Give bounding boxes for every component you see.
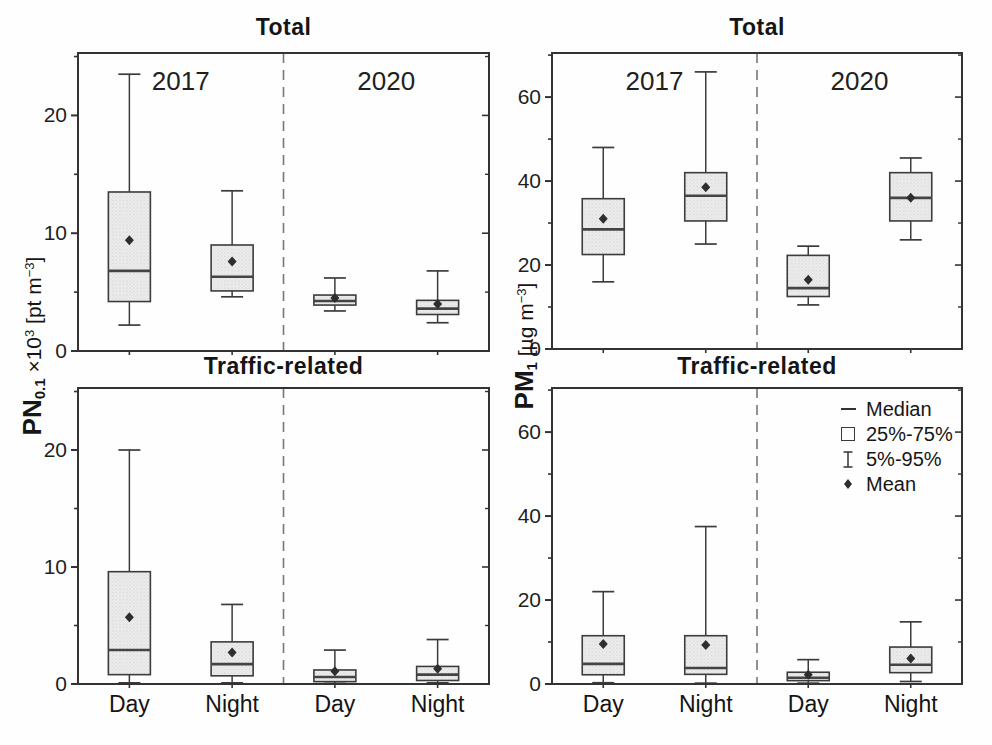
iqr-box (108, 572, 150, 675)
box-2020-night (890, 622, 932, 682)
x-category-label: Night (679, 691, 733, 717)
y-tick-label: 0 (55, 672, 67, 695)
legend-label: Mean (866, 473, 916, 496)
y-axis-unit: [pt m (22, 277, 45, 330)
legend-item-mean: Mean (838, 472, 953, 496)
box-2020-day (787, 660, 829, 684)
box-2017-day (582, 592, 624, 683)
iqr-box (211, 642, 253, 676)
boxplot-panel-top-right: 020406020172020 (518, 53, 962, 360)
y-tick-label: 10 (44, 555, 67, 578)
legend-item-iqr: 25%-75% (838, 422, 953, 446)
boxplot-panel-top-left: 0102020172020 (44, 53, 489, 362)
whisker-icon (838, 450, 858, 469)
iqr-box (108, 192, 150, 302)
x-category-label: Night (884, 691, 938, 717)
y-tick-label: 10 (44, 221, 67, 244)
y-axis-name-sub: 1 (523, 362, 540, 370)
year-label: 2017 (152, 66, 210, 96)
x-category-label: Day (109, 691, 150, 717)
box-2017-day (582, 147, 624, 281)
y-tick-label: 60 (518, 85, 541, 108)
y-tick-label: 0 (529, 672, 541, 695)
legend-label: 25%-75% (866, 423, 953, 446)
box-2020-night (417, 640, 459, 683)
box-2020-night (417, 271, 459, 323)
median-line-icon (838, 408, 858, 411)
legend-label: 5%-95% (866, 448, 942, 471)
box-2017-night (211, 191, 253, 297)
panel-title-traffic-left: Traffic-related (78, 353, 489, 380)
y-axis-unit: [µg m (514, 303, 537, 362)
y-tick-label: 20 (44, 103, 67, 126)
y-axis-unit-close: ] (22, 257, 45, 263)
box-2020-day (314, 650, 356, 683)
mean-diamond-icon (838, 479, 858, 489)
legend-label: Median (866, 398, 932, 421)
box-2017-night (211, 604, 253, 682)
box-2017-day (108, 450, 150, 683)
x-category-label: Night (205, 691, 259, 717)
box-2020-night (890, 158, 932, 240)
y-axis-label-pm1: PM1 [µg m−3] (505, 136, 539, 556)
y-axis-label-pn01: PN0.1 ×103 [pt m−3] (13, 136, 47, 556)
y-axis-name: PN (17, 399, 47, 435)
x-category-label: Day (314, 691, 355, 717)
legend-item-median: Median (838, 397, 953, 421)
box-2017-night (685, 527, 727, 684)
legend-item-whisker: 5%-95% (838, 447, 953, 471)
panel-title-total-right: Total (552, 14, 962, 41)
y-axis-unit-exp: −3 (22, 262, 37, 277)
iqr-box (211, 245, 253, 291)
box-2020-day (314, 278, 356, 311)
panel-title-total-left: Total (78, 14, 489, 41)
box-outline-icon (838, 427, 858, 441)
legend: Median 25%-75% 5%-95% Mean (838, 397, 953, 497)
boxplot-figure: 010202017202002040602017202001020DayNigh… (0, 0, 992, 745)
x-category-label: Day (583, 691, 624, 717)
y-tick-label: 20 (44, 438, 67, 461)
box-2020-day (787, 246, 829, 305)
y-axis-name: PM (509, 370, 539, 409)
y-tick-label: 0 (55, 339, 67, 362)
iqr-box (582, 199, 624, 255)
y-axis-scale: ×10 (22, 337, 45, 378)
y-axis-unit-exp: −3 (514, 288, 529, 303)
y-axis-name-sub: 0.1 (31, 378, 48, 399)
y-axis-unit-close: ] (514, 283, 537, 289)
panel-title-traffic-right: Traffic-related (552, 353, 962, 380)
y-axis-scale-exp: 3 (22, 330, 37, 337)
year-label: 2020 (831, 66, 889, 96)
x-category-label: Day (788, 691, 829, 717)
whisker-glyph (840, 450, 856, 469)
box-2017-night (685, 72, 727, 244)
year-label: 2020 (357, 66, 415, 96)
y-tick-label: 20 (518, 588, 541, 611)
year-label: 2017 (626, 66, 684, 96)
x-category-label: Night (411, 691, 465, 717)
boxplot-panel-bottom-left: 01020DayNightDayNight (44, 388, 489, 717)
box-2017-day (108, 74, 150, 325)
